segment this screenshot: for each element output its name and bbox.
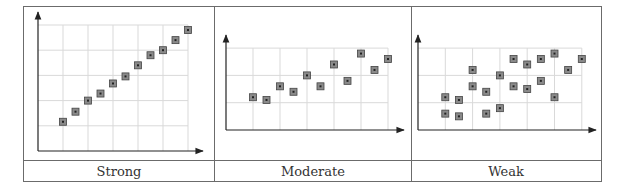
- data-point-center: [87, 100, 89, 102]
- data-point-center: [150, 54, 152, 56]
- data-point-center: [252, 96, 254, 98]
- data-point-center: [100, 93, 102, 95]
- data-point-center: [347, 80, 349, 82]
- data-point-center: [75, 111, 77, 113]
- data-point-center: [175, 39, 177, 41]
- data-point-center: [540, 58, 542, 60]
- data-point-center: [279, 85, 281, 87]
- scatter-plot-weak: [418, 35, 596, 130]
- panel-label-weak: Weak: [488, 164, 524, 179]
- data-point-center: [62, 121, 64, 123]
- data-point-center: [306, 74, 308, 76]
- data-point-center: [112, 82, 114, 84]
- scatter-plot-moderate: [226, 35, 404, 130]
- panel-label-moderate: Moderate: [281, 164, 345, 179]
- data-point-center: [360, 53, 362, 55]
- data-point-center: [266, 99, 268, 101]
- data-point-center: [137, 64, 139, 66]
- data-point-center: [374, 69, 376, 71]
- data-point-center: [125, 75, 127, 77]
- data-point-center: [320, 85, 322, 87]
- data-point-center: [540, 80, 542, 82]
- data-point-center: [162, 49, 164, 51]
- data-point-center: [444, 113, 446, 115]
- data-point-center: [513, 85, 515, 87]
- data-point-center: [472, 85, 474, 87]
- data-point-center: [458, 99, 460, 101]
- data-point-center: [387, 58, 389, 60]
- correlation-strength-figure: Strong Moderate Weak: [0, 0, 622, 190]
- data-point-center: [187, 29, 189, 31]
- data-point-center: [499, 74, 501, 76]
- data-point-center: [526, 63, 528, 65]
- data-point-center: [333, 63, 335, 65]
- table-frame: [24, 7, 602, 182]
- outer-border: [24, 7, 602, 182]
- data-point-center: [485, 91, 487, 93]
- data-point-center: [554, 96, 556, 98]
- data-point-center: [554, 53, 556, 55]
- data-point-center: [513, 58, 515, 60]
- data-point-center: [293, 91, 295, 93]
- data-point-center: [472, 69, 474, 71]
- data-point-center: [458, 115, 460, 117]
- data-point-center: [499, 107, 501, 109]
- data-point-center: [581, 58, 583, 60]
- data-point-center: [526, 88, 528, 90]
- panel-label-strong: Strong: [97, 164, 142, 179]
- data-point-center: [485, 113, 487, 115]
- data-point-center: [444, 96, 446, 98]
- scatter-plot-strong: [38, 12, 203, 151]
- data-point-center: [567, 69, 569, 71]
